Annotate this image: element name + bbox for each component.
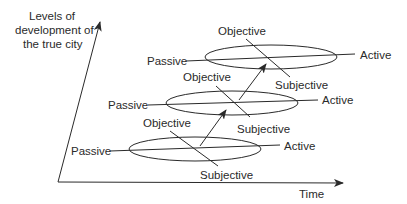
level-1-passive: Passive [71,145,111,157]
progression-arrow-1 [200,110,226,146]
x-axis-label: Time [299,188,324,200]
y-axis-label-line-3: the true city [23,38,83,50]
level-1-subjective: Subjective [200,169,253,181]
level-3-passive: Passive [147,55,187,67]
y-axis-label-line-2: development of [15,24,94,36]
level-1-active: Active [284,140,315,152]
level-2-subjective: Subjective [237,123,290,135]
development-diagram: Levels of development of the true city T… [0,0,407,204]
y-axis-label-line-1: Levels of [29,10,76,22]
level-3-active: Active [360,49,391,61]
level-2-passive: Passive [108,99,148,111]
level-2-objective: Objective [183,71,231,83]
level-2-active: Active [322,94,353,106]
level-1-objective: Objective [143,117,191,129]
progression-arrow-2 [239,64,266,100]
x-axis [58,182,343,183]
level-3-objective: Objective [218,25,266,37]
level-3-subjective: Subjective [275,79,328,91]
